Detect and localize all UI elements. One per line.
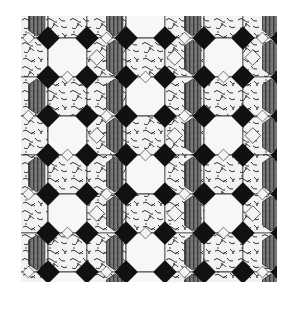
striped-hexagon-tile	[263, 157, 278, 192]
striped-hexagon-tile	[185, 40, 201, 75]
striped-hexagon-tile	[185, 235, 201, 270]
striped-hexagon-tile	[107, 196, 123, 231]
tile-pattern-svg	[21, 16, 277, 282]
striped-hexagon-tile	[107, 118, 123, 153]
striped-hexagon-tile	[263, 79, 278, 114]
striped-hexagon-tile	[263, 235, 278, 270]
striped-hexagon-tile	[107, 40, 123, 75]
striped-hexagon-tile	[107, 235, 123, 270]
striped-hexagon-tile	[185, 79, 201, 114]
tile-pattern-image	[21, 16, 277, 282]
striped-hexagon-tile	[185, 196, 201, 231]
striped-hexagon-tile	[29, 235, 45, 270]
striped-hexagon-tile	[107, 157, 123, 192]
striped-hexagon-tile	[107, 79, 123, 114]
striped-hexagon-tile	[29, 157, 45, 192]
striped-hexagon-tile	[185, 118, 201, 153]
striped-hexagon-tile	[263, 40, 278, 75]
striped-hexagon-tile	[29, 79, 45, 114]
striped-hexagon-tile	[185, 157, 201, 192]
striped-hexagon-tile	[263, 196, 278, 231]
striped-hexagon-tile	[263, 118, 278, 153]
